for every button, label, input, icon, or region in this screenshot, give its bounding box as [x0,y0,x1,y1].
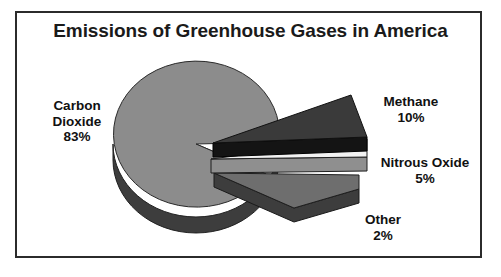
chart-figure: Emissions of Greenhouse Gases in America [0,0,501,277]
slice-label-methane-line1: Methane [368,94,454,110]
slice-label-carbon-dioxide-line1: Carbon [34,98,120,114]
slice-label-carbon-dioxide-line2: Dioxide [34,114,120,130]
slice-label-other: Other 2% [352,212,414,243]
slice-label-methane: Methane 10% [368,94,454,125]
slice-label-carbon-dioxide-value: 83% [34,129,120,145]
slice-label-nitrous-oxide-line1: Nitrous Oxide [369,155,481,171]
slice-label-methane-value: 10% [368,110,454,126]
slice-label-nitrous-oxide: Nitrous Oxide 5% [369,155,481,186]
pie-slice-nitrous-oxide-side [211,157,367,173]
slice-label-nitrous-oxide-value: 5% [369,171,481,187]
slice-label-carbon-dioxide: Carbon Dioxide 83% [34,98,120,145]
slice-label-other-line1: Other [352,212,414,228]
slice-label-other-value: 2% [352,228,414,244]
